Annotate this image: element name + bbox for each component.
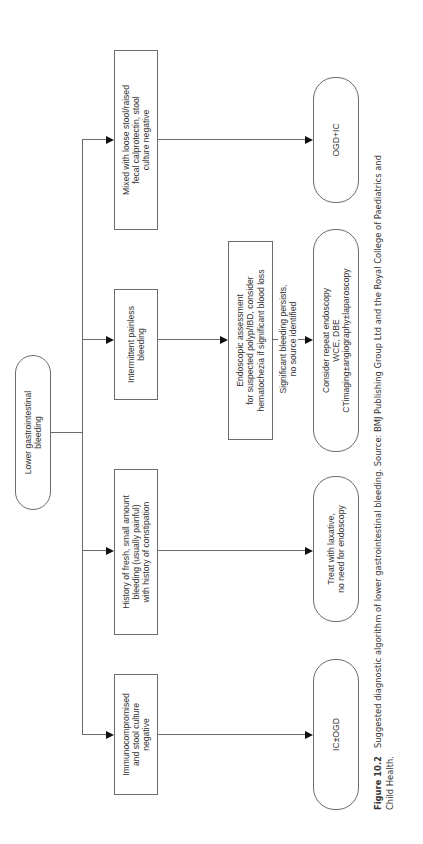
edge-history-outcome — [158, 550, 305, 551]
figure-caption: Figure 10.2Suggested diagnostic algorith… — [372, 10, 396, 810]
caption-line-1: Figure 10.2Suggested diagnostic algorith… — [372, 10, 384, 810]
drop-history — [82, 550, 106, 551]
outcome-treat-laxative: Treat with laxative, no need for endosco… — [313, 476, 359, 622]
arrow-intermittent-icon — [106, 336, 114, 344]
outcome-consider-repeat-endoscopy: Consider repeat endoscopy WCE, DBE CTima… — [313, 229, 359, 452]
condition-immunocompromised: Immunocompromised and stool culture nega… — [114, 674, 158, 795]
condition-loose-stool: Mixed with loose stool/raised fecal calp… — [114, 50, 158, 230]
outcome-ogd-ic: OGD+IC — [313, 77, 359, 203]
edge-mixed-outcome — [158, 139, 305, 140]
flowchart-canvas: Lower gastrointestinal bleeding Immunoco… — [0, 0, 423, 844]
branch-bus — [82, 139, 83, 735]
arrow-endoscopic-icon — [220, 336, 228, 344]
arrow-mixed-icon — [106, 136, 114, 144]
condition-fresh-bleeding: History of fresh, small amount bleeding … — [114, 469, 158, 635]
endoscopic-assessment-node: Endoscopic assessment for suspected poly… — [228, 241, 273, 440]
edge-immuno-outcome — [158, 734, 305, 735]
arrow-consider-icon — [305, 336, 313, 344]
outcome-ic-ogd: IC±OGD — [313, 659, 359, 810]
arrow-immuno-icon — [106, 731, 114, 739]
caption-figure-label: Figure 10.2 — [373, 756, 383, 810]
edge-label-bleeding-persists: Significant bleeding persists, no source… — [278, 274, 298, 404]
drop-mixed — [82, 139, 106, 140]
edge-intermittent-endoscopic — [158, 339, 220, 340]
condition-intermittent-painless: Intermittent painless bleeding — [114, 289, 158, 400]
root-connector — [51, 432, 82, 433]
root-node: Lower gastrointestinal bleeding — [15, 355, 51, 510]
drop-immuno — [82, 734, 106, 735]
arrow-history-icon — [106, 547, 114, 555]
drop-intermittent — [82, 339, 106, 340]
caption-text: Suggested diagnostic algorithm of lower … — [373, 155, 383, 748]
arrow-mixed-outcome-icon — [305, 136, 313, 144]
arrow-history-outcome-icon — [305, 547, 313, 555]
caption-line-2: Child Health. — [384, 10, 396, 810]
arrow-immuno-outcome-icon — [305, 731, 313, 739]
